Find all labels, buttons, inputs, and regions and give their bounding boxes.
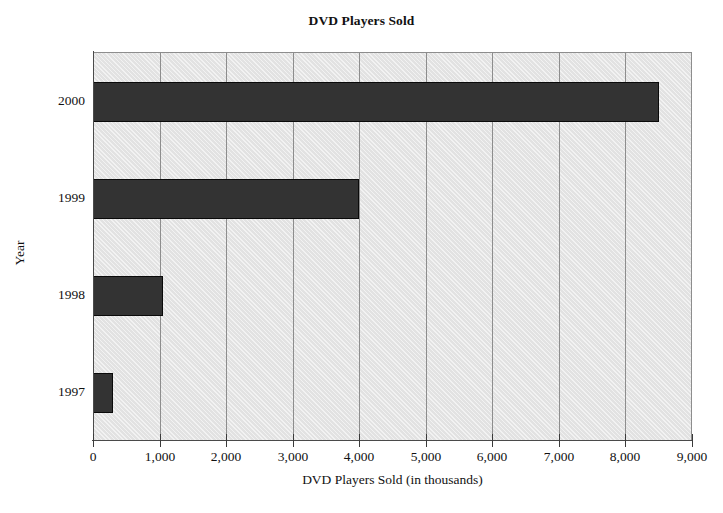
chart-title: DVD Players Sold [0,13,723,29]
x-tick-mark-1000 [160,434,161,447]
plot-area [93,52,692,440]
bar-2000 [93,82,659,122]
x-tick-mark-8000 [625,434,626,447]
bar-1999 [93,179,359,219]
y-axis-line [93,51,94,441]
x-tick-mark-0 [93,434,94,447]
x-tick-mark-7000 [559,434,560,447]
x-tick-mark-9000 [692,434,693,447]
x-tick-mark-5000 [426,434,427,447]
x-tick-mark-4000 [359,434,360,447]
x-tick-label-9000: 9,000 [647,448,723,465]
y-tick-label-2000: 2000 [23,93,85,109]
x-tick-mark-3000 [293,434,294,447]
x-axis-title: DVD Players Sold (in thousands) [93,471,692,488]
bar-1997 [93,373,113,413]
bar-1998 [93,276,163,316]
x-tick-mark-2000 [226,434,227,447]
x-tick-mark-6000 [492,434,493,447]
y-tick-label-1997: 1997 [23,384,85,400]
y-axis-title: Year [11,249,61,266]
y-tick-label-1999: 1999 [23,190,85,206]
x-axis-line [92,440,693,441]
bar-series [93,53,691,440]
y-tick-label-1998: 1998 [23,287,85,303]
